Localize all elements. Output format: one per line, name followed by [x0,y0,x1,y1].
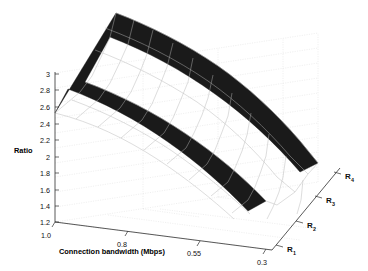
y-cat-label-r3-sub: 3 [332,201,335,207]
z-tick-label-3: 3 [46,70,50,79]
x-tick-label-0p3: 0.3 [257,258,267,267]
z-axis-title: Ratio [14,146,33,155]
z-tick-label-1p8: 1.8 [40,169,50,178]
plot-canvas: 3 2.8 2.6 2.4 2.2 2 1.8 1.6 1.4 1.2 Rati… [0,0,368,271]
surface-body [55,13,318,211]
y-cat-label-r1-sub: 1 [293,250,296,256]
y-cat-label-r4-sub: 4 [351,177,354,183]
surface-plot-figure: 3 2.8 2.6 2.4 2.2 2 1.8 1.6 1.4 1.2 Rati… [0,0,368,271]
y-cat-label-r4: R 4 [345,172,354,183]
x-tick-label-1p0: 1.0 [41,231,51,240]
y-cat-label-r2-sub: 2 [313,226,316,232]
z-tick-label-1p4: 1.4 [40,202,50,211]
z-tick-label-2p4: 2.4 [40,120,50,129]
y-cat-label-r3: R 3 [326,196,335,207]
y-cat-label-r2: R 2 [307,221,316,232]
z-tick-label-2p2: 2.2 [40,136,50,145]
y-axis-ticks [276,172,341,247]
x-axis-title: Connection bandwidth (Mbps) [59,247,165,256]
surface-3d [55,13,318,211]
z-tick-label-2: 2 [46,153,50,162]
z-tick-label-1p2: 1.2 [40,218,50,227]
z-tick-label-2p8: 2.8 [40,86,50,95]
x-tick-label-0p55: 0.55 [187,249,201,258]
x-axis-line [55,222,272,250]
y-cat-label-r1: R 1 [287,245,296,256]
z-tick-label-1p6: 1.6 [40,186,50,195]
z-tick-label-2p6: 2.6 [40,103,50,112]
